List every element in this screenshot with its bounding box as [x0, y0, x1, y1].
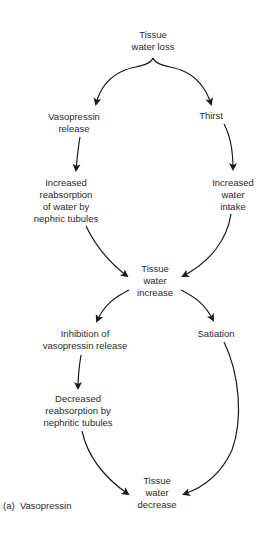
arrow-increase-to-inhibition — [97, 290, 129, 321]
arrow-inhibition-to-decreased — [78, 355, 81, 388]
node-satiation: Satiation — [198, 328, 235, 340]
node-tissue-water-decrease: Tissue water decrease — [137, 475, 176, 511]
arrow-loss-to-vasopressin — [96, 58, 153, 104]
arrow-vasopressin-to-reabsorption — [76, 137, 80, 170]
node-increased-reabsorption: Increased reabsorption of water by nephr… — [34, 177, 98, 225]
node-increased-water-intake: Increased water intake — [212, 177, 254, 213]
node-vasopressin-release: Vasopressin release — [48, 111, 100, 135]
node-tissue-water-loss: Tissue water loss — [132, 29, 175, 53]
arrow-increase-to-satiation — [181, 290, 213, 320]
figure-caption: (a) Vasopressin — [3, 500, 71, 512]
node-tissue-water-increase: Tissue water increase — [137, 263, 173, 299]
arrow-thirst-to-intake — [224, 124, 233, 169]
node-thirst: Thirst — [199, 110, 223, 122]
arrows-layer — [0, 0, 263, 546]
arrow-decreased-to-decrease — [82, 431, 128, 494]
arrow-reabsorption-to-increase — [86, 226, 127, 276]
node-inhibition-vasopressin: Inhibition of vasopressin release — [43, 328, 128, 352]
node-decreased-reabsorption: Decreased reabsorption by nephritic tubu… — [43, 393, 112, 429]
arrow-satiation-to-decrease — [184, 342, 239, 494]
arrow-loss-to-thirst — [153, 58, 211, 104]
arrow-intake-to-increase — [183, 214, 231, 276]
